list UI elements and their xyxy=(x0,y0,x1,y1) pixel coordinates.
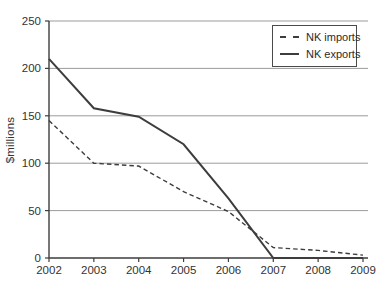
x-tick-label-2005: 2005 xyxy=(171,264,197,276)
y-tick-label-100: 100 xyxy=(22,157,41,169)
x-tick-label-2003: 2003 xyxy=(81,264,107,276)
y-tick-label-50: 50 xyxy=(28,205,41,217)
y-tick-label-200: 200 xyxy=(22,62,41,74)
series-line-nk-exports xyxy=(49,59,363,258)
dashed-line-sample-icon xyxy=(280,36,299,38)
legend: NK imports NK exports xyxy=(272,25,357,67)
y-tick-label-150: 150 xyxy=(22,110,41,122)
legend-item-nk-imports: NK imports xyxy=(280,31,349,43)
x-tick-label-2002: 2002 xyxy=(36,264,62,276)
legend-label-nk-imports: NK imports xyxy=(306,31,360,43)
x-tick-label-2006: 2006 xyxy=(216,264,242,276)
legend-label-nk-exports: NK exports xyxy=(306,48,360,60)
x-tick-label-2009: 2009 xyxy=(350,264,376,276)
y-tick-label-0: 0 xyxy=(35,252,41,264)
legend-item-nk-exports: NK exports xyxy=(280,48,349,60)
x-tick-label-2007: 2007 xyxy=(260,264,286,276)
x-tick-label-2008: 2008 xyxy=(305,264,331,276)
solid-line-sample-icon xyxy=(280,53,299,55)
y-tick-label-250: 250 xyxy=(22,15,41,27)
line-chart-figure: $millions 050100150200250200220032004200… xyxy=(0,0,382,291)
series-line-nk-imports xyxy=(49,121,363,256)
x-tick-label-2004: 2004 xyxy=(126,264,152,276)
